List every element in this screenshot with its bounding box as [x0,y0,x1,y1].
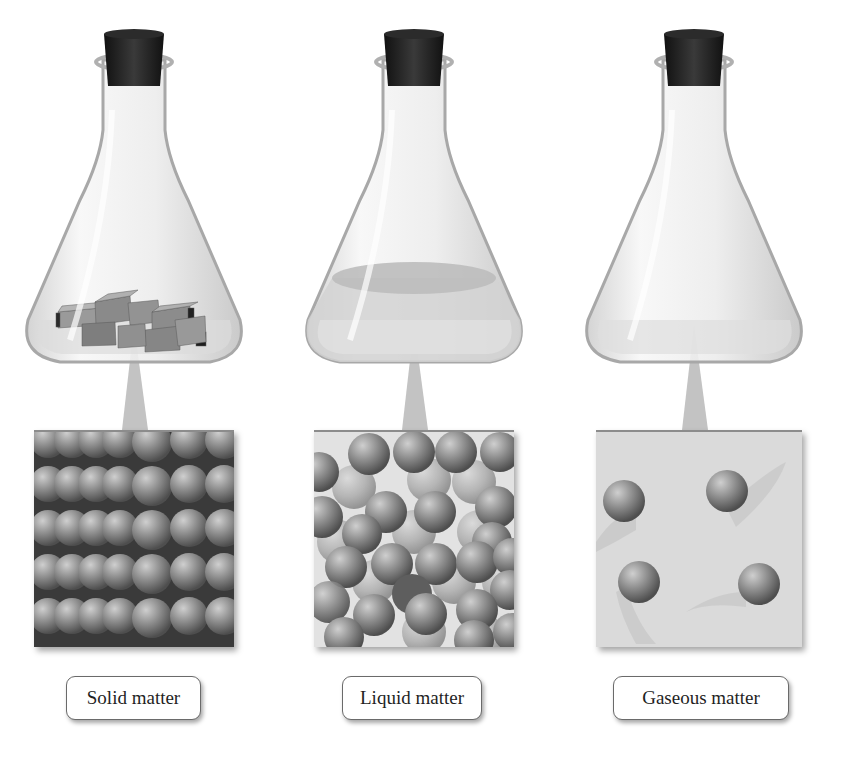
gas-label: Gaseous matter [613,676,789,720]
liquid-panel: Liquid matter [280,0,560,767]
liquid-particles [314,432,514,647]
gas-panel: Gaseous matter [560,0,840,767]
solid-zoom-view [34,430,234,647]
solid-flask-icon [0,20,280,440]
gas-flask-icon [560,20,840,440]
gas-particle [738,563,780,605]
liquid-zoom-view [314,430,514,647]
gas-particle [706,470,748,512]
gas-particle [603,480,645,522]
gas-particles [596,432,802,647]
solid-particles [34,432,234,647]
liquid-flask-icon [280,20,560,440]
gas-particle [618,561,660,603]
solid-label: Solid matter [66,676,201,720]
solid-panel: Solid matter [0,0,280,767]
liquid-label: Liquid matter [342,676,482,720]
gas-zoom-view [596,430,802,647]
